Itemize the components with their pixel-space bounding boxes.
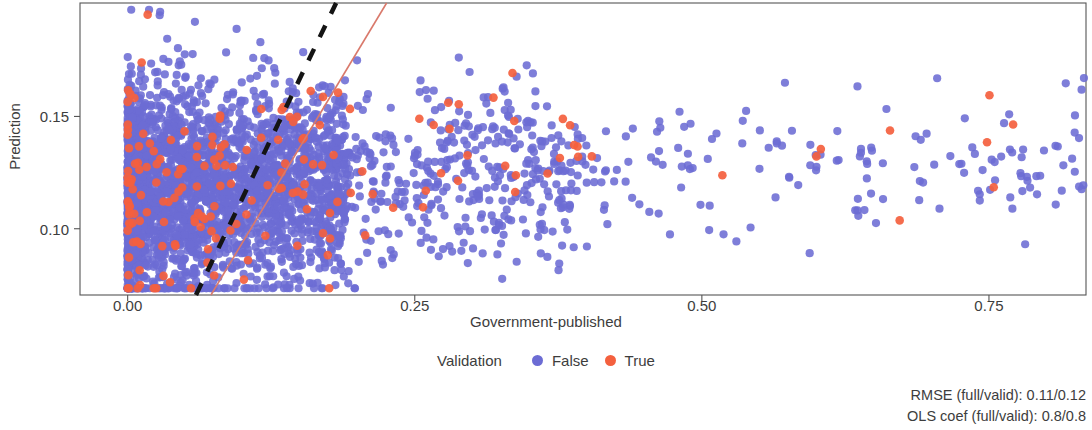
- metrics-annotation: RMSE (full/valid): 0.11/0.12 OLS coef (f…: [907, 385, 1086, 426]
- scatter-plot-figure: Prediction Government-published 0.000.25…: [0, 0, 1092, 430]
- x-tick-label: 0.50: [687, 297, 716, 314]
- annotation-line-ols: OLS coef (full/valid): 0.8/0.8: [907, 406, 1086, 427]
- x-axis-title: Government-published: [0, 313, 1092, 330]
- x-tick-label: 0.75: [974, 297, 1003, 314]
- legend-item-false[interactable]: False: [532, 352, 589, 369]
- x-tick-label: 0.00: [113, 297, 142, 314]
- legend: Validation False True: [0, 352, 1092, 369]
- legend-item-true[interactable]: True: [605, 352, 655, 369]
- y-tick-label: 0.15: [18, 108, 69, 125]
- y-axis-title: Prediction: [6, 77, 23, 197]
- annotation-line-rmse: RMSE (full/valid): 0.11/0.12: [907, 385, 1086, 406]
- legend-label-false: False: [552, 352, 589, 369]
- legend-title: Validation: [437, 352, 502, 369]
- legend-swatch-true: [605, 355, 616, 366]
- y-tick-label: 0.10: [18, 220, 69, 237]
- x-tick-label: 0.25: [400, 297, 429, 314]
- legend-label-true: True: [625, 352, 655, 369]
- legend-swatch-false: [532, 355, 543, 366]
